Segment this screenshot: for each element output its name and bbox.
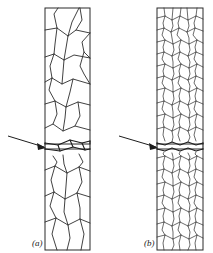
arrow-b xyxy=(119,136,158,150)
panel-b-group: (b) xyxy=(119,8,203,250)
arrow-a xyxy=(8,136,46,150)
panel-b-label: (b) xyxy=(144,238,155,248)
panel-a-group: (a) xyxy=(8,8,90,250)
figure-svg: (a) (b) xyxy=(0,0,213,253)
figure-container: (a) (b) xyxy=(0,0,213,253)
panel-a-label: (a) xyxy=(32,238,43,248)
specimen-b-outline-lower xyxy=(157,149,203,250)
